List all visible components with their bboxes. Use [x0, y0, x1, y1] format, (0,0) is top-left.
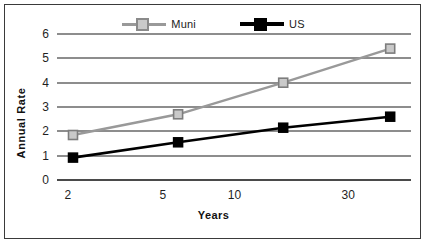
legend-label-muni: Muni: [171, 18, 196, 30]
legend-swatch-muni: [122, 23, 166, 26]
y-axis-tick-label: 5: [42, 51, 49, 65]
data-point-muni[interactable]: [174, 110, 183, 119]
data-point-muni[interactable]: [279, 78, 288, 87]
series-line-us: [73, 117, 390, 158]
series-layer: [57, 34, 411, 180]
legend-marker-muni: [136, 18, 149, 31]
x-axis-title-text: Years: [198, 209, 229, 221]
plot-area: [57, 34, 411, 180]
legend-label-us: US: [289, 18, 305, 30]
data-point-muni[interactable]: [69, 131, 78, 140]
x-axis-tick-labels: 251030: [57, 188, 411, 204]
legend-item-muni[interactable]: Muni: [122, 18, 196, 30]
y-axis-tick-labels: 0123456: [5, 5, 57, 240]
data-point-us[interactable]: [69, 153, 78, 162]
y-axis-tick-label: 6: [42, 27, 49, 41]
y-axis-tick-label: 2: [42, 124, 49, 138]
legend-item-us[interactable]: US: [240, 18, 305, 30]
y-axis-tick-label: 1: [42, 149, 49, 163]
x-axis-tick-label: 10: [228, 188, 241, 202]
legend-marker-us: [254, 18, 267, 31]
x-axis-tick-label: 5: [159, 188, 166, 202]
data-point-muni[interactable]: [386, 44, 395, 53]
data-point-us[interactable]: [174, 138, 183, 147]
x-axis-title: Years: [5, 209, 422, 221]
legend-swatch-us: [240, 23, 284, 26]
y-axis-tick-label: 4: [42, 76, 49, 90]
x-axis-tick-label: 2: [65, 188, 72, 202]
chart-legend: Muni US: [5, 13, 422, 35]
x-axis-tick-label: 30: [342, 188, 355, 202]
data-point-us[interactable]: [279, 123, 288, 132]
y-axis-tick-label: 3: [42, 100, 49, 114]
y-axis-tick-label: 0: [42, 173, 49, 187]
data-point-us[interactable]: [386, 112, 395, 121]
chart-frame: Muni US Annual Rate 0123456 251030 Years: [4, 4, 421, 239]
